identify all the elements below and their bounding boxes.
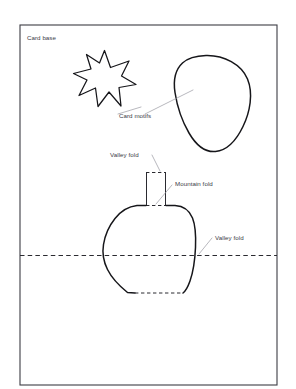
card-motifs-label: Card motifs <box>119 112 151 119</box>
diagram-canvas: Card base Card motifs Valley fold Mounta… <box>0 0 296 389</box>
mountain-fold-label: Mountain fold <box>175 180 213 187</box>
card-base-label: Card base <box>27 34 57 41</box>
valley-fold-top-label: Valley fold <box>110 151 139 158</box>
pop-up-card-diagram: Card base Card motifs Valley fold Mounta… <box>0 0 296 389</box>
valley-fold-right-label: Valley fold <box>215 234 244 241</box>
